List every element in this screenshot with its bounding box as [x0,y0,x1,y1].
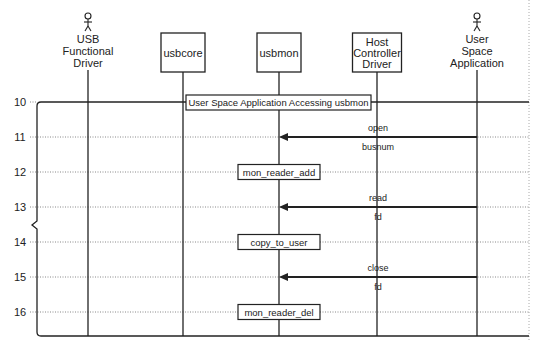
message-label: open [368,123,388,133]
action-label: copy_to_user [250,237,307,248]
row-number-label: 14 [14,236,26,248]
action-label: mon_reader_del [244,307,313,318]
action-label: mon_reader_add [243,167,315,178]
row-number-label: 15 [14,271,26,283]
message-return-label: busnum [362,142,394,152]
sequence-diagram: 10111213141516 USBFunctionalDriverusbcor… [0,0,541,346]
participant-label: usbcore [163,47,202,59]
participant-label: Driver [362,58,392,70]
message-return-label: fd [374,282,382,292]
message-label: read [369,193,387,203]
messages: openbusnumreadfdclosefd [279,123,477,292]
participant-label: USB [77,33,100,45]
participant-label: Driver [73,57,103,69]
message-return-label: fd [374,212,382,222]
actor-icon [84,13,92,31]
arrowhead-icon [279,133,288,141]
message-label: close [367,263,388,273]
participant-label: User [465,33,489,45]
participant-label: Functional [63,45,114,57]
actor-icon [473,13,481,31]
arrowhead-icon [279,273,288,281]
frame-title: User Space Application Accessing usbmon [186,95,371,110]
row-number-label: 13 [14,201,26,213]
row-number-label: 12 [14,166,26,178]
sequence-diagram-canvas: 10111213141516 USBFunctionalDriverusbcor… [0,0,541,346]
frame-title-label: User Space Application Accessing usbmon [188,97,368,108]
participant-label: usbmon [259,47,298,59]
arrowhead-icon [279,203,288,211]
participant-heads: USBFunctionalDriverusbcoreusbmonHostCont… [63,13,504,72]
row-number-label: 10 [14,96,26,108]
row-number-label: 11 [14,131,25,143]
row-number-label: 16 [14,306,26,318]
participant-label: Space [461,45,492,57]
participant-label: Application [450,57,504,69]
